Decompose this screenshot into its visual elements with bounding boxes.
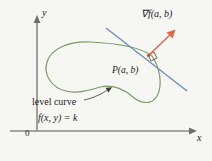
level-curve-label: level curve [32,97,76,107]
point-label: P(a, b) [112,66,138,76]
tangent-point-dot [147,54,150,57]
tangent-line [106,28,187,91]
x-axis [10,128,197,135]
level-curve-gradient-figure: y x 0 ∇f(a, b) P(a, b) level curve f(x, … [0,0,212,161]
level-curve-path [46,42,160,103]
gradient-vector-label: ∇f(a, b) [141,9,172,19]
level-curve-equation-label: f(x, y) = k [38,113,78,123]
axis-label-x: x [197,133,201,143]
axis-label-y: y [42,8,46,18]
leader-line [84,87,112,100]
origin-label: 0 [25,129,30,138]
figure-canvas [0,0,212,161]
leader-arrowhead [106,87,113,92]
y-axis-arrowhead [34,15,41,23]
gradient-arrow [149,30,176,56]
x-axis-arrowhead [189,128,197,135]
